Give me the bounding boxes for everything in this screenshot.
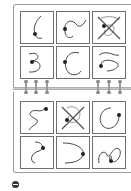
curve-open-circle-icon xyxy=(93,102,125,133)
card-4 xyxy=(20,46,54,79)
card-11 xyxy=(56,136,90,169)
curve-u-arc-icon xyxy=(57,137,89,168)
spiral-ring xyxy=(119,80,121,94)
card-2 xyxy=(56,11,90,44)
card-10 xyxy=(20,136,54,169)
curve-wave-icon xyxy=(57,12,89,43)
spiral-binding xyxy=(13,85,131,91)
curve-loop-crossed-icon xyxy=(93,12,125,43)
spiral-bar xyxy=(13,87,131,90)
card-6 xyxy=(92,46,126,79)
curve-squiggle-icon xyxy=(21,102,53,133)
curve-spiral-squiggle-icon xyxy=(93,137,125,168)
curve-reversed-3-icon xyxy=(21,47,53,78)
circle-minus-icon xyxy=(12,181,19,188)
card-grid-bottom xyxy=(20,101,126,169)
card-1 xyxy=(20,11,54,44)
card-9 xyxy=(92,101,126,134)
spiral-ring xyxy=(35,80,37,94)
spiral-ring xyxy=(108,80,110,94)
curve-c-arc-icon xyxy=(57,47,89,78)
curve-left-bulge-icon xyxy=(21,12,53,43)
spiral-ring xyxy=(25,80,27,94)
spiral-ring xyxy=(46,80,48,94)
card-grid-top xyxy=(20,11,126,79)
card-8-crossed xyxy=(56,101,90,134)
card-7 xyxy=(20,101,54,134)
curve-hook-s-icon xyxy=(21,137,53,168)
curve-s-wave-icon xyxy=(93,47,125,78)
curve-loop-crossed-icon xyxy=(57,102,89,133)
spiral-ring xyxy=(97,80,99,94)
card-5 xyxy=(56,46,90,79)
card-12 xyxy=(92,136,126,169)
card-3-crossed xyxy=(92,11,126,44)
